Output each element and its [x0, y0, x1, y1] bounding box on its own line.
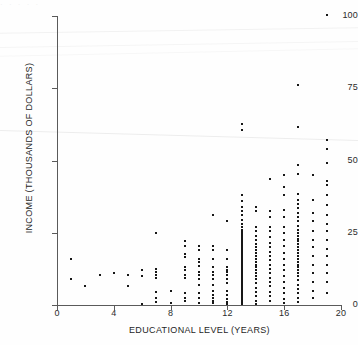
data-point: [212, 249, 214, 251]
data-point: [184, 240, 186, 242]
data-point: [198, 249, 200, 251]
data-point: [269, 291, 271, 293]
data-point: [212, 284, 214, 286]
data-point: [326, 204, 328, 206]
data-point: [326, 292, 328, 294]
data-point: [155, 301, 157, 303]
data-point: [269, 178, 271, 180]
data-point: [255, 252, 257, 254]
data-point: [241, 219, 243, 221]
data-point: [269, 277, 271, 279]
data-point: [283, 194, 285, 196]
data-point: [127, 285, 129, 287]
data-point: [255, 239, 257, 241]
data-point: [212, 278, 214, 280]
data-point: [326, 281, 328, 283]
x-tick-label: 8: [159, 309, 183, 318]
data-point: [326, 14, 328, 16]
data-point: [297, 229, 299, 231]
data-point: [198, 245, 200, 247]
data-point: [297, 288, 299, 290]
data-point: [255, 295, 257, 297]
data-point: [255, 246, 257, 248]
data-point: [226, 274, 228, 276]
y-tick-mark: [52, 233, 57, 234]
data-point: [269, 300, 271, 302]
data-point: [212, 302, 214, 304]
data-point: [326, 255, 328, 257]
data-point: [326, 184, 328, 186]
data-point: [283, 269, 285, 271]
data-point: [312, 174, 314, 176]
data-point: [255, 300, 257, 302]
data-point: [297, 235, 299, 237]
data-point: [141, 303, 143, 305]
data-point: [255, 291, 257, 293]
data-point: [198, 284, 200, 286]
data-point: [212, 290, 214, 292]
data-point: [297, 232, 299, 234]
data-point: [198, 265, 200, 267]
data-point: [241, 303, 243, 305]
data-point: [226, 258, 228, 260]
data-point: [326, 264, 328, 266]
data-point: [226, 294, 228, 296]
data-point: [184, 297, 186, 299]
data-point: [269, 264, 271, 266]
data-point: [283, 232, 285, 234]
data-point: [255, 210, 257, 212]
data-point: [170, 290, 172, 292]
data-point: [283, 216, 285, 218]
data-point: [269, 236, 271, 238]
data-point: [297, 284, 299, 286]
data-point: [297, 272, 299, 274]
data-point: [127, 274, 129, 276]
data-point: [297, 252, 299, 254]
data-point: [113, 272, 115, 274]
data-point: [297, 240, 299, 242]
y-axis-line: [57, 16, 58, 306]
data-point: [283, 258, 285, 260]
data-point: [255, 303, 257, 305]
data-point: [326, 223, 328, 225]
data-point: [312, 239, 314, 241]
data-point: [255, 266, 257, 268]
x-tick-label: 12: [215, 309, 239, 318]
data-point: [212, 258, 214, 260]
data-point: [312, 255, 314, 257]
data-point: [297, 269, 299, 271]
data-point: [141, 275, 143, 277]
data-point: [297, 249, 299, 251]
data-point: [255, 206, 257, 208]
y-tick-label: 0: [312, 300, 358, 309]
data-point: [99, 274, 101, 276]
data-point: [212, 214, 214, 216]
data-point: [198, 274, 200, 276]
data-point: [297, 292, 299, 294]
data-point: [241, 223, 243, 225]
data-point: [283, 209, 285, 211]
data-point: [198, 297, 200, 299]
data-point: [255, 235, 257, 237]
data-point: [269, 251, 271, 253]
data-point: [326, 239, 328, 241]
data-point: [184, 292, 186, 294]
data-point: [70, 258, 72, 260]
data-point: [198, 292, 200, 294]
y-tick-mark: [52, 16, 57, 17]
data-point: [312, 230, 314, 232]
data-point: [255, 264, 257, 266]
data-point: [241, 194, 243, 196]
data-point: [297, 164, 299, 166]
data-point: [283, 174, 285, 176]
data-point: [269, 210, 271, 212]
y-tick-mark: [52, 161, 57, 162]
data-point: [283, 239, 285, 241]
data-point: [241, 206, 243, 208]
data-point: [312, 272, 314, 274]
data-point: [269, 216, 271, 218]
data-point: [212, 294, 214, 296]
x-tick-label: 16: [272, 309, 296, 318]
data-point: [255, 269, 257, 271]
data-point: [226, 266, 228, 268]
